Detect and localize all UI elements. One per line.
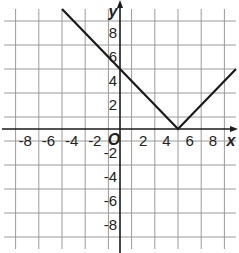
coordinate-plane: -8-6-4-224688642-2-4-6-8Oxy: [0, 0, 239, 253]
y-axis-arrow-icon: [117, 0, 123, 8]
x-tick-label: -4: [65, 132, 78, 149]
x-tick-label: -8: [19, 132, 32, 149]
y-axis-label: y: [108, 3, 119, 20]
y-tick-label: -4: [104, 168, 117, 185]
origin-label: O: [108, 131, 121, 148]
x-tick-label: -6: [42, 132, 55, 149]
axes: [2, 0, 238, 253]
y-tick-label: 8: [109, 24, 117, 41]
x-tick-label: -2: [88, 132, 101, 149]
x-tick-label: 8: [209, 132, 217, 149]
y-tick-label: -6: [104, 192, 117, 209]
x-axis-label: x: [226, 132, 237, 149]
x-tick-label: 2: [139, 132, 147, 149]
x-tick-label: 4: [162, 132, 170, 149]
y-tick-label: 4: [109, 72, 117, 89]
y-tick-label: 2: [109, 96, 117, 113]
y-tick-label: -8: [104, 216, 117, 233]
tick-labels: -8-6-4-224688642-2-4-6-8Oxy: [19, 3, 237, 233]
x-tick-label: 6: [185, 132, 193, 149]
